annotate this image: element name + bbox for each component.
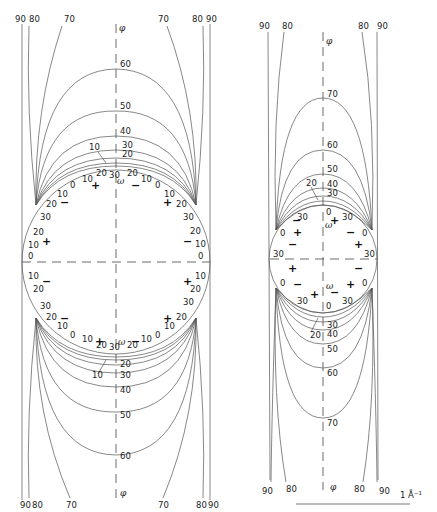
plus-sign: +: [330, 214, 339, 227]
contour-label: 50: [120, 101, 131, 111]
phi-label: 90: [20, 500, 31, 510]
minus-sign: −: [293, 278, 302, 291]
contour-label: 70: [327, 89, 338, 99]
omega-tick: 10: [82, 334, 93, 344]
omega-tick: 20: [96, 168, 107, 178]
omega-tick: 0: [70, 180, 75, 190]
phi-label: 70: [66, 500, 77, 510]
contour-label: 20: [122, 149, 133, 159]
contour-label: 60: [327, 368, 338, 378]
phi-label: 90: [15, 14, 26, 24]
omega-tick: 10: [195, 271, 206, 281]
contour-label: 60: [120, 59, 131, 69]
phi-label: 80: [282, 21, 293, 31]
diagram-canvas: 90 80 70 70 80 90 φ 60 50 40 30 20 10 30…: [0, 0, 437, 512]
phi-label: 90: [262, 486, 273, 496]
right-diagram: 90 80 80 90 φ 70 60 50 40 30 20 0 30 30 …: [259, 21, 422, 504]
phi-label: 80: [192, 14, 203, 24]
minus-sign: +: [95, 335, 104, 348]
omega-tick: 20: [176, 312, 187, 322]
omega-tick: 10: [141, 334, 152, 344]
phi-label: 80: [354, 484, 365, 494]
omega-tick: 30: [297, 296, 308, 306]
contour-label: 70: [327, 418, 338, 428]
contour-label: 10: [92, 370, 103, 380]
plus-sign: +: [42, 235, 51, 248]
phi-label: 90: [206, 14, 217, 24]
minus-sign: −: [42, 275, 51, 288]
omega-tick: 30: [342, 212, 353, 222]
contour-label: 50: [327, 164, 338, 174]
phi-axis-label: φ: [119, 23, 126, 33]
phi-label: 80: [358, 21, 369, 31]
omega-tick: 30: [273, 249, 284, 259]
omega-tick: 30: [364, 249, 375, 259]
plus-sign: +: [183, 275, 192, 288]
contour-label: 20: [306, 178, 317, 188]
contour-label: 40: [120, 385, 131, 395]
contour-label: 20: [310, 330, 321, 340]
phi-label: 90: [379, 486, 390, 496]
phi-axis-label: φ: [330, 482, 337, 492]
omega-tick: 10: [141, 174, 152, 184]
phi-label: 70: [158, 500, 169, 510]
contour-label: 30: [327, 188, 338, 198]
contour-label: 40: [120, 126, 131, 136]
contour-label: 60: [120, 451, 131, 461]
phi-axis-label: φ: [326, 36, 333, 46]
omega-tick: 20: [46, 312, 57, 322]
plus-sign: −: [60, 312, 69, 325]
contour-label: 50: [120, 410, 131, 420]
left-diagram: 90 80 70 70 80 90 φ 60 50 40 30 20 10 30…: [15, 14, 219, 510]
plus-sign: +: [310, 288, 319, 301]
omega-tick: 0: [280, 228, 285, 238]
plus-sign: −: [131, 335, 140, 348]
minus-sign: +: [163, 312, 172, 325]
plus-sign: +: [354, 238, 363, 251]
phi-label: 90: [208, 500, 219, 510]
omega-tick: 0: [326, 301, 331, 311]
phi-label: 80: [32, 500, 43, 510]
omega-tick: 10: [28, 240, 39, 250]
phi-label: 80: [196, 500, 207, 510]
omega-tick: 20: [176, 199, 187, 209]
omega-tick: 30: [183, 297, 194, 307]
phi-label: 70: [158, 14, 169, 24]
contour-label: 40: [327, 329, 338, 339]
contour-label: 10: [89, 142, 100, 152]
omega-label: ω: [118, 337, 126, 347]
omega-tick: 0: [28, 251, 33, 261]
phi-label: 70: [64, 14, 75, 24]
omega-tick: 0: [198, 251, 203, 261]
minus-sign: −: [288, 238, 297, 251]
plus-sign: +: [91, 179, 100, 192]
omega-tick: 10: [195, 239, 206, 249]
plus-sign: +: [163, 196, 172, 209]
minus-sign: −: [354, 262, 363, 275]
contour-label: 20: [120, 359, 131, 369]
minus-sign: −: [183, 235, 192, 248]
phi-label: 90: [259, 21, 270, 31]
omega-tick: 20: [46, 199, 57, 209]
minus-sign: −: [330, 286, 339, 299]
omega-tick: 30: [183, 212, 194, 222]
omega-tick: 0: [155, 180, 160, 190]
plus-sign: +: [346, 278, 355, 291]
contour-label: 30: [120, 370, 131, 380]
omega-tick: 30: [40, 212, 51, 222]
omega-tick: 20: [127, 168, 138, 178]
omega-tick: 0: [280, 278, 285, 288]
minus-sign: −: [131, 179, 140, 192]
phi-label: 80: [286, 484, 297, 494]
omega-label: ω: [117, 176, 125, 186]
omega-tick: 30: [342, 296, 353, 306]
omega-tick: 10: [28, 271, 39, 281]
plus-sign: +: [288, 262, 297, 275]
phi-label: 90: [377, 21, 388, 31]
omega-tick: 30: [40, 301, 51, 311]
omega-tick: 0: [70, 330, 75, 340]
phi-label: 80: [29, 14, 40, 24]
phi-axis-label: φ: [120, 488, 127, 498]
contour-label: 60: [327, 140, 338, 150]
omega-tick: 0: [362, 278, 367, 288]
